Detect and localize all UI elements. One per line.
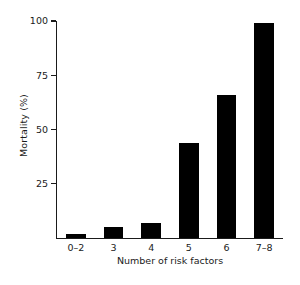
bar-slot [217,21,237,238]
x-axis-title: Number of risk factors [57,255,283,266]
bar [179,143,199,238]
bar [104,227,124,238]
y-tick-100: 100 [51,20,56,21]
y-tick-25: 25 [51,183,56,184]
bar-slot [141,21,161,238]
x-tick-label: 4 [148,242,154,253]
plot-area: 255075100 0–234567–8 [57,21,283,238]
bar-series [57,21,283,238]
bar [217,95,237,238]
y-axis-title: Mortality (%) [18,13,32,238]
bar [141,223,161,238]
y-tick-label-25: 25 [36,178,48,189]
bar-slot [104,21,124,238]
bar-chart-figure: Mortality (%) 255075100 0–234567–8 Numbe… [0,0,300,285]
x-tick-label: 0–2 [67,242,84,253]
y-tick-label-100: 100 [30,15,48,26]
y-tick-50: 50 [51,129,56,130]
y-tick-label-75: 75 [36,69,48,80]
x-tick-label: 5 [186,242,192,253]
clipped-caption-text [6,276,294,285]
y-tick-label-50: 50 [36,123,48,134]
bar [66,234,86,238]
bar [254,23,274,238]
x-axis-line [56,238,283,239]
y-tick-75: 75 [51,75,56,76]
bar-slot [254,21,274,238]
x-tick-label: 6 [223,242,229,253]
x-tick-label: 3 [110,242,116,253]
bar-slot [66,21,86,238]
bar-slot [179,21,199,238]
x-tick-label: 7–8 [256,242,273,253]
